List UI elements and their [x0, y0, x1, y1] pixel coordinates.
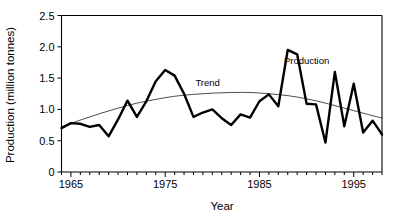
y-tick-label: 1.5 [39, 72, 54, 84]
y-tick-label: 1.0 [39, 103, 54, 115]
y-axis-tick-labels: 00.51.01.52.02.5 [39, 10, 54, 179]
annotation-trend: Trend [195, 77, 219, 88]
x-tick-label: 1975 [153, 178, 177, 190]
y-tick-label: 0 [48, 166, 54, 178]
x-tick-label: 1965 [59, 178, 83, 190]
y-tick-label: 2.5 [39, 10, 54, 22]
annotation-production: Production [284, 55, 329, 66]
chart-figure: 00.51.01.52.02.5 1965197519851995 TrendP… [0, 0, 395, 215]
y-axis-ticks [58, 16, 62, 173]
x-axis-title: Year [210, 200, 233, 212]
trend-line [62, 92, 383, 127]
y-tick-label: 2.0 [39, 41, 54, 53]
x-tick-label: 1995 [341, 178, 365, 190]
y-axis-title: Production (million tonnes) [4, 27, 16, 163]
series-annotations: TrendProduction [195, 55, 329, 88]
production-line [62, 50, 383, 143]
production-trend-line-chart: 00.51.01.52.02.5 1965197519851995 TrendP… [0, 0, 395, 215]
x-tick-label: 1985 [247, 178, 271, 190]
y-tick-label: 0.5 [39, 135, 54, 147]
x-axis-tick-labels: 1965197519851995 [59, 178, 366, 190]
